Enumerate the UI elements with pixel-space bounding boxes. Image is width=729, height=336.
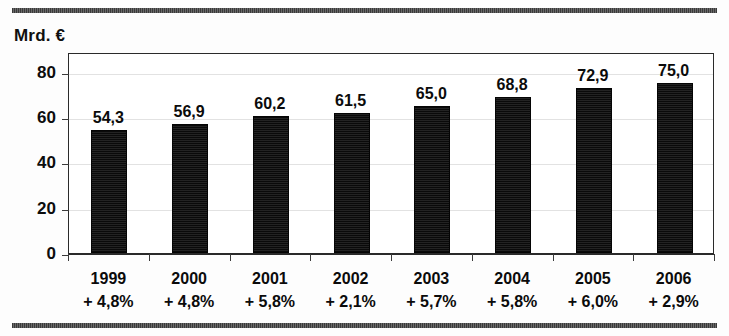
growth-annotation-1999: + 4,8% (83, 293, 133, 311)
bar-2004 (495, 97, 531, 253)
y-axis-tick-80 (62, 74, 69, 75)
gridline-y-40 (69, 164, 713, 165)
bar-value-label-1999: 54,3 (93, 109, 124, 127)
growth-annotation-2004: + 5,8% (487, 293, 537, 311)
bar-value-label-2000: 56,9 (174, 103, 205, 121)
x-axis-category-label-2000: 2000 (171, 270, 207, 288)
x-axis-category-label-2002: 2002 (333, 270, 369, 288)
bar-2002 (334, 113, 370, 253)
y-axis-label-40: 40 (10, 153, 56, 173)
growth-annotation-2001: + 5,8% (245, 293, 295, 311)
y-axis-tick-60 (62, 119, 69, 120)
bar-2005 (576, 88, 612, 253)
y-axis-label-80: 80 (10, 63, 56, 83)
y-axis-label-0: 0 (10, 244, 56, 264)
x-axis-tick-4 (391, 254, 392, 261)
bar-value-label-2001: 60,2 (254, 95, 285, 113)
x-axis-tick-7 (633, 254, 634, 261)
x-axis-category-label-2006: 2006 (656, 270, 692, 288)
y-axis-tick-40 (62, 164, 69, 165)
x-axis-tick-3 (310, 254, 311, 261)
growth-annotation-2003: + 5,7% (406, 293, 456, 311)
x-axis-category-label-2003: 2003 (414, 270, 450, 288)
bar-2001 (253, 116, 289, 253)
gridline-y-60 (69, 119, 713, 120)
bar-2003 (414, 106, 450, 253)
growth-annotation-2006: + 2,9% (648, 293, 698, 311)
gridline-y-20 (69, 210, 713, 211)
growth-annotation-2002: + 2,1% (325, 293, 375, 311)
bar-value-label-2005: 72,9 (577, 67, 608, 85)
y-axis-label-20: 20 (10, 199, 56, 219)
chart-figure: Mrd. € 02040608054,31999+ 4,8%56,92000+ … (0, 0, 729, 336)
x-axis-tick-0 (68, 254, 69, 261)
bar-value-label-2006: 75,0 (658, 62, 689, 80)
bar-value-label-2004: 68,8 (497, 76, 528, 94)
x-axis-tick-end (714, 254, 715, 261)
y-axis-label-60: 60 (10, 108, 56, 128)
y-axis-tick-20 (62, 210, 69, 211)
x-axis-tick-2 (230, 254, 231, 261)
bar-1999 (91, 130, 127, 253)
bottom-divider-rule (12, 323, 717, 328)
y-axis-unit-label: Mrd. € (14, 26, 65, 46)
bar-value-label-2003: 65,0 (416, 85, 447, 103)
plot-area (68, 53, 714, 254)
gridline-y-80 (69, 74, 713, 75)
bar-2000 (172, 124, 208, 253)
x-axis-category-label-1999: 1999 (91, 270, 127, 288)
x-axis-category-label-2005: 2005 (575, 270, 611, 288)
x-axis-category-label-2004: 2004 (494, 270, 530, 288)
bar-2006 (657, 83, 693, 253)
top-divider-rule (12, 8, 717, 13)
bar-value-label-2002: 61,5 (335, 92, 366, 110)
x-axis-tick-6 (553, 254, 554, 261)
x-axis-category-label-2001: 2001 (252, 270, 288, 288)
growth-annotation-2005: + 6,0% (568, 293, 618, 311)
x-axis-tick-1 (149, 254, 150, 261)
growth-annotation-2000: + 4,8% (164, 293, 214, 311)
x-axis-tick-5 (472, 254, 473, 261)
